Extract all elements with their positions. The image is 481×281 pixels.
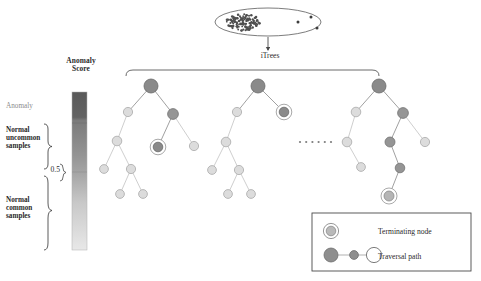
tree-node xyxy=(398,108,409,119)
legend-terminating-node-label: Terminating node xyxy=(378,228,474,237)
anomaly-colorbar-group xyxy=(72,92,87,250)
tree-node xyxy=(116,190,125,199)
tree-node xyxy=(221,137,231,147)
colorbar-tick-half: 0.5 xyxy=(38,166,60,175)
tree-node xyxy=(342,137,352,147)
tree-node xyxy=(224,190,233,199)
terminating-node xyxy=(279,107,289,117)
tree-node xyxy=(385,137,395,147)
brace-half-tick xyxy=(60,164,66,181)
forest-ellipsis-dots xyxy=(299,141,332,143)
diagram-svg xyxy=(0,0,481,281)
tree-node xyxy=(420,137,429,146)
tree-node xyxy=(112,136,122,146)
itrees-layer xyxy=(100,79,430,204)
tree-node xyxy=(100,165,109,174)
terminating-node xyxy=(384,191,394,201)
itree-2 xyxy=(208,79,292,198)
data-distribution-group xyxy=(215,8,321,50)
tree-node xyxy=(232,107,241,116)
anomaly-colorbar xyxy=(72,92,87,250)
itrees-arrow-label: iTrees xyxy=(246,52,294,61)
tree-node xyxy=(357,163,366,172)
tree-node xyxy=(208,166,217,175)
dense-cluster-points xyxy=(226,13,261,31)
figure-canvas: Anomaly Score Anomaly Normal uncommon sa… xyxy=(0,0,481,281)
data-ellipse xyxy=(215,8,321,36)
tree-node xyxy=(372,79,386,93)
forest-brace xyxy=(126,70,379,76)
legend-box xyxy=(312,213,471,271)
colorbar-label-normal-uncommon: Normal uncommon samples xyxy=(6,126,62,150)
tree-node xyxy=(123,107,132,116)
tree-node xyxy=(351,107,361,117)
colorbar-label-normal-common: Normal common samples xyxy=(6,196,62,220)
terminating-node xyxy=(153,142,163,152)
tree-node xyxy=(234,165,243,174)
tree-node xyxy=(395,163,405,173)
tree-node xyxy=(251,79,265,93)
tree-node xyxy=(247,190,256,199)
tree-node xyxy=(144,79,158,93)
tree-node xyxy=(126,164,135,173)
colorbar-title: Anomaly Score xyxy=(57,57,105,74)
tree-node xyxy=(189,141,198,150)
legend-box-group xyxy=(312,213,471,271)
outlier-points xyxy=(297,16,319,30)
itree-3 xyxy=(342,79,429,204)
colorbar-label-anomaly: Anomaly xyxy=(6,102,62,110)
tree-node xyxy=(139,190,148,199)
itree-1 xyxy=(100,79,199,198)
legend-traversal-path-label: Traversal path xyxy=(378,253,474,262)
legend-terminating-node-symbol xyxy=(323,223,338,238)
tree-node xyxy=(168,109,179,120)
